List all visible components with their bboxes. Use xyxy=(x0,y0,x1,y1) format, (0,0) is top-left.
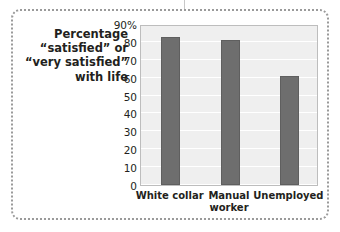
bar xyxy=(280,76,299,185)
y-axis-tick-label: 90% xyxy=(114,20,137,31)
y-axis-tick-label: 70 xyxy=(124,56,137,67)
bar-series xyxy=(141,26,317,185)
y-axis-tick-label: 20 xyxy=(124,145,137,156)
figure: Percentage “satisfied” or “very satisfie… xyxy=(0,0,340,232)
crop-registration-tick xyxy=(184,0,185,9)
bar xyxy=(221,40,240,185)
y-axis-tick-labels: 0102030405060708090% xyxy=(104,25,137,186)
y-axis-tick-label: 40 xyxy=(124,109,137,120)
y-axis-tick-label: 60 xyxy=(124,73,137,84)
plot-area xyxy=(140,25,318,186)
y-axis-tick-label: 80 xyxy=(124,38,137,49)
gridline xyxy=(141,23,317,24)
y-axis-tick-label: 10 xyxy=(124,163,137,174)
y-axis-tick-label: 30 xyxy=(124,127,137,138)
x-axis-tick-label: Unemployed xyxy=(251,190,326,202)
bar xyxy=(161,37,180,185)
y-axis-tick-label: 50 xyxy=(124,91,137,102)
x-axis-tick-labels: White collarManual workerUnemployed xyxy=(140,190,318,220)
